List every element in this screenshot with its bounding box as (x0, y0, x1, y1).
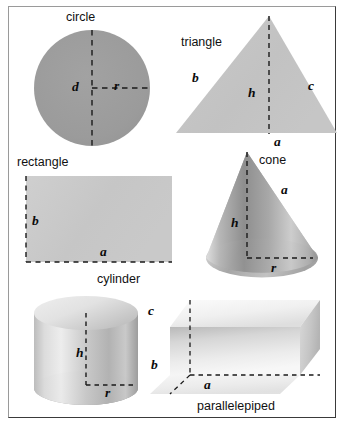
box-height-label: b (151, 357, 158, 373)
cylinder-title: cylinder (97, 272, 140, 286)
rectangle-height-label: b (32, 213, 39, 229)
rectangle-title: rectangle (17, 155, 68, 169)
parallelepiped-title: parallelepiped (197, 399, 275, 413)
triangle-side-c-label: c (308, 78, 314, 94)
shapes-canvas (0, 0, 345, 425)
triangle-side-b-label: b (192, 70, 199, 86)
geometry-figure: circle triangle rectangle cone cylinder … (0, 0, 345, 425)
triangle-base-label: a (274, 134, 281, 150)
rectangle-shape (26, 176, 172, 262)
triangle-height-label: h (248, 85, 256, 101)
cylinder-height-label: h (76, 345, 84, 361)
cone-height-label: h (231, 215, 239, 231)
rectangle-width-label: a (100, 244, 107, 260)
circle-title: circle (66, 10, 95, 24)
parallelepiped-shape (150, 300, 320, 394)
circle-diameter-label: d (72, 79, 79, 95)
cylinder-radius-label: r (105, 385, 110, 401)
cylinder-shape (34, 296, 138, 405)
circle-radius-label: r (114, 78, 119, 94)
circle-shape (34, 30, 152, 147)
cone-shape (206, 152, 318, 278)
box-length-label: a (204, 377, 211, 393)
cone-title: cone (259, 153, 286, 167)
cone-slant-label: a (281, 182, 288, 198)
triangle-shape (176, 16, 337, 134)
triangle-title: triangle (181, 35, 222, 49)
cone-radius-label: r (271, 260, 276, 276)
box-depth-label: c (148, 303, 154, 319)
